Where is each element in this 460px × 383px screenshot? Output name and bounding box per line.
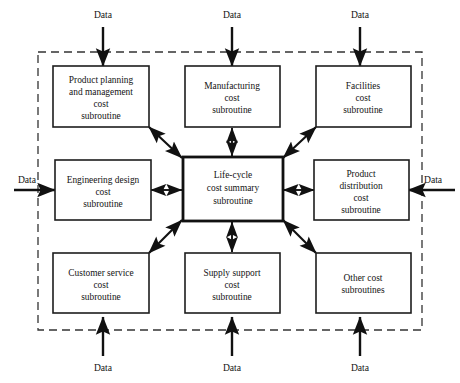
- data-input-right: Data: [408, 174, 455, 190]
- data-input-bottom-left: Data: [94, 317, 113, 373]
- box-product-planning-and-management-cost[interactable]: Product planning and management cost sub…: [53, 66, 149, 127]
- box-label-line: cost: [224, 280, 239, 290]
- box-label-line: distribution: [339, 181, 383, 191]
- box-customer-service-cost[interactable]: Customer service cost subroutine: [53, 253, 149, 313]
- box-manufacturing-cost[interactable]: Manufacturing cost subroutine: [185, 66, 280, 127]
- box-label-line: subroutine: [212, 105, 252, 115]
- box-engineering-design-cost[interactable]: Engineering design cost subroutine: [55, 160, 151, 220]
- box-label-line: and management: [69, 87, 133, 97]
- box-label-line: Engineering design: [67, 175, 140, 185]
- box-facilities-cost[interactable]: Facilities cost subroutine: [316, 66, 411, 127]
- box-label-line: Facilities: [346, 81, 381, 91]
- box-label-line: subroutine: [343, 105, 383, 115]
- box-label-line: subroutine: [83, 199, 123, 209]
- box-label-line: cost: [93, 99, 108, 109]
- box-label-line: cost: [355, 93, 370, 103]
- data-input-bottom-center: Data: [223, 317, 242, 373]
- box-label-line: Supply support: [203, 268, 260, 278]
- data-label-top-left: Data: [94, 9, 113, 20]
- box-life-cycle-cost-summary[interactable]: Life-cycle cost summary subroutine: [183, 157, 283, 221]
- data-input-top-right: Data: [351, 9, 370, 66]
- connector-other-cost-to-center: [283, 220, 316, 253]
- box-label-line: Manufacturing: [204, 81, 260, 91]
- data-label-top-center: Data: [223, 9, 242, 20]
- data-label-bottom-left: Data: [94, 362, 113, 373]
- connector-customer-service-to-center: [149, 220, 182, 253]
- center-label-line: cost summary: [207, 183, 260, 193]
- data-label-left: Data: [18, 174, 37, 185]
- connector-facilities-to-center: [283, 127, 316, 158]
- box-label-line: Other cost: [344, 273, 383, 283]
- box-label-line: subroutine: [81, 292, 121, 302]
- box-product-distribution-cost[interactable]: Product distribution cost subroutine: [314, 160, 409, 220]
- connector-product-planning-to-center: [149, 127, 182, 158]
- data-input-left: Data: [14, 174, 55, 190]
- data-label-bottom-right: Data: [351, 362, 370, 373]
- diagram-svg: Data Data Data Data Data Data Data Data: [0, 0, 460, 383]
- box-label-line: subroutines: [341, 285, 385, 295]
- box-supply-support-cost[interactable]: Supply support cost subroutine: [185, 253, 280, 313]
- box-label-line: cost: [224, 93, 239, 103]
- box-label-line: cost: [353, 193, 368, 203]
- diagram-canvas: Data Data Data Data Data Data Data Data: [0, 0, 460, 383]
- box-label-line: subroutine: [212, 292, 252, 302]
- center-label-line: Life-cycle: [214, 170, 253, 180]
- box-label-line: subroutine: [81, 111, 121, 121]
- box-other-cost[interactable]: Other cost subroutines: [316, 253, 411, 313]
- box-label-line: Customer service: [68, 268, 133, 278]
- center-label-line: subroutine: [213, 196, 253, 206]
- data-label-right: Data: [424, 174, 443, 185]
- box-label-line: subroutine: [341, 205, 381, 215]
- data-input-top-left: Data: [94, 9, 113, 66]
- box-label-line: cost: [93, 280, 108, 290]
- box-label-line: cost: [95, 187, 110, 197]
- box-label-line: Product: [346, 169, 376, 179]
- box-label-line: Product planning: [69, 75, 134, 85]
- data-label-bottom-center: Data: [223, 362, 242, 373]
- data-input-bottom-right: Data: [351, 317, 370, 373]
- data-label-top-right: Data: [351, 9, 370, 20]
- data-input-top-center: Data: [223, 9, 242, 66]
